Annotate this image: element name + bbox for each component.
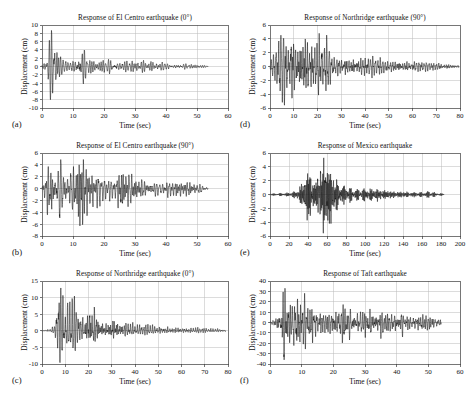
waveform-trace-d	[270, 33, 459, 105]
x-tick-label: 20	[314, 112, 322, 120]
chart-panel-e: 0204060801001201401601802006420-2-4-6Res…	[240, 142, 468, 260]
panel-tag-c: (c)	[12, 375, 22, 385]
y-axis-label-c: Displacement (cm)	[20, 281, 29, 364]
y-tick-label: 6	[263, 149, 267, 157]
y-tick-label: -6	[260, 104, 266, 112]
y-tick-label: -30	[257, 350, 267, 358]
y-axis-label-d: Displacement (cm)	[248, 25, 257, 108]
x-axis-label-f: Time (sec)	[270, 377, 460, 386]
y-tick-label: -2	[32, 197, 38, 205]
x-tick-label: 10	[70, 240, 78, 248]
x-tick-label: 40	[132, 368, 140, 376]
x-tick-label: 60	[178, 368, 186, 376]
chart-panel-c: 01020304050607080151050-5-10Response of …	[12, 270, 236, 388]
y-tick-label: -6	[32, 221, 38, 229]
x-tick-label: 20	[286, 240, 294, 248]
waveform-trace-c	[42, 288, 226, 363]
plot-area-b: 01020304050606420-2-4-6-8	[12, 142, 236, 260]
gridlines-c	[42, 281, 228, 364]
x-tick-label: 10	[298, 368, 306, 376]
waveform-trace-a	[42, 30, 208, 99]
y-tick-label: -2	[260, 77, 266, 85]
panel-tag-a: (a)	[12, 119, 22, 129]
y-tick-label: 6	[35, 38, 39, 46]
x-tick-label: 60	[225, 112, 233, 120]
waveform-trace-f	[270, 288, 441, 360]
x-tick-label: 50	[385, 112, 393, 120]
axis-ticks-b: 01020304050606420-2-4-6-8	[32, 149, 232, 248]
x-tick-label: 80	[343, 240, 351, 248]
y-tick-label: 4	[35, 46, 39, 54]
y-tick-label: 10	[31, 294, 39, 302]
y-axis-label-e: Displacement (cm)	[248, 153, 257, 236]
panel-title-d: Response of Northridge earthquake (90°)	[270, 14, 460, 22]
y-tick-label: 5	[35, 311, 39, 319]
y-tick-label: 0	[35, 327, 39, 335]
x-tick-label: 30	[132, 112, 140, 120]
x-tick-label: 0	[268, 112, 272, 120]
x-tick-label: 0	[40, 368, 44, 376]
panel-title-c: Response of Northridge earthquake (0°)	[42, 270, 228, 278]
x-tick-label: 0	[268, 240, 272, 248]
y-tick-label: 10	[31, 21, 39, 29]
y-tick-label: 40	[259, 277, 267, 285]
panel-title-b: Response of El Centro earthquake (90°)	[42, 142, 228, 150]
y-tick-label: -4	[260, 91, 266, 99]
chart-panel-b: 01020304050606420-2-4-6-8Response of El …	[12, 142, 236, 260]
x-tick-label: 20	[101, 240, 109, 248]
y-axis-label-f: Displacement (cm)	[248, 281, 257, 364]
y-tick-label: 20	[259, 298, 267, 306]
x-tick-label: 50	[155, 368, 163, 376]
plot-area-a: 01020304050601086420-2-4-6-8-10	[12, 14, 236, 132]
x-tick-label: 50	[194, 240, 202, 248]
y-tick-label: -2	[32, 71, 38, 79]
x-tick-label: 30	[108, 368, 116, 376]
y-tick-label: 30	[259, 288, 267, 296]
panel-tag-b: (b)	[12, 247, 22, 257]
y-tick-label: -10	[29, 360, 39, 368]
panel-title-a: Response of El Centro earthquake (0°)	[42, 14, 228, 22]
y-tick-label: -4	[260, 219, 266, 227]
x-tick-label: 60	[225, 240, 233, 248]
x-tick-label: 80	[457, 112, 465, 120]
y-tick-label: -6	[260, 232, 266, 240]
earthquake-response-figure: 01020304050601086420-2-4-6-8-10Response …	[0, 0, 473, 397]
x-tick-label: 40	[393, 368, 401, 376]
x-tick-label: 30	[362, 368, 370, 376]
y-tick-label: 0	[263, 63, 267, 71]
y-tick-label: 15	[31, 277, 39, 285]
y-tick-label: 0	[263, 319, 267, 327]
x-axis-label-e: Time (sec)	[270, 249, 460, 258]
x-tick-label: 30	[338, 112, 346, 120]
y-tick-label: 2	[35, 55, 39, 63]
y-tick-label: 10	[259, 309, 267, 317]
x-tick-label: 20	[330, 368, 338, 376]
panel-tag-f: (f)	[240, 375, 249, 385]
y-tick-label: -2	[260, 205, 266, 213]
y-tick-label: -8	[32, 96, 38, 104]
x-tick-label: 200	[455, 240, 466, 248]
y-tick-label: 0	[263, 191, 267, 199]
x-axis-label-b: Time (sec)	[42, 249, 228, 258]
x-tick-label: 0	[40, 240, 44, 248]
x-tick-label: 60	[457, 368, 465, 376]
x-tick-label: 20	[101, 112, 109, 120]
x-tick-label: 50	[194, 112, 202, 120]
y-tick-label: 4	[35, 161, 39, 169]
y-tick-label: -6	[32, 88, 38, 96]
x-tick-label: 0	[268, 368, 272, 376]
x-tick-label: 10	[290, 112, 298, 120]
y-tick-label: -10	[29, 104, 39, 112]
chart-panel-f: 0102030405060403020100-10-20-30-40Respon…	[240, 270, 468, 388]
x-tick-label: 20	[85, 368, 93, 376]
y-tick-label: 0	[35, 185, 39, 193]
y-tick-label: 6	[263, 21, 267, 29]
y-tick-label: -10	[257, 329, 267, 337]
y-tick-label: -8	[32, 232, 38, 240]
waveform-trace-b	[42, 160, 208, 226]
x-tick-label: 70	[201, 368, 209, 376]
x-axis-label-c: Time (sec)	[42, 377, 228, 386]
x-tick-label: 10	[70, 112, 78, 120]
y-axis-label-b: Displacement (cm)	[20, 153, 29, 236]
y-tick-label: 8	[35, 30, 39, 38]
